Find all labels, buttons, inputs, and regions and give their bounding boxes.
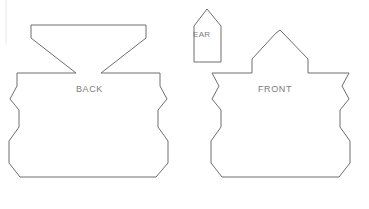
pattern-piece-back[interactable] xyxy=(9,25,168,177)
pattern-canvas: BACK EAR FRONT xyxy=(0,0,369,209)
pattern-piece-front[interactable] xyxy=(211,30,350,177)
pattern-label-front: FRONT xyxy=(258,84,292,94)
pattern-sheet-svg xyxy=(0,0,369,209)
pattern-label-back: BACK xyxy=(76,84,103,94)
pattern-label-ear: EAR xyxy=(193,30,210,39)
